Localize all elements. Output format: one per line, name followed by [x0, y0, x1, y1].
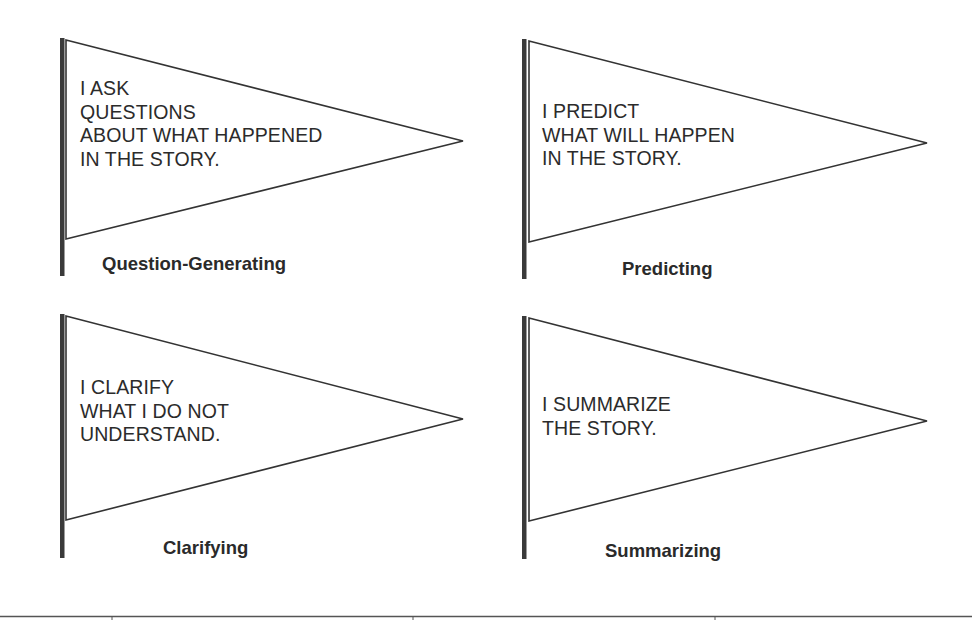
pennant-line: UNDERSTAND.	[80, 423, 229, 447]
pennant-line: IN THE STORY.	[542, 147, 735, 171]
pennant-label-question-generating: Question-Generating	[102, 253, 286, 275]
pennant-line: WHAT WILL HAPPEN	[542, 124, 735, 148]
flag-pole	[522, 39, 527, 279]
pennant-text-predicting: I PREDICT WHAT WILL HAPPEN IN THE STORY.	[542, 100, 735, 171]
pennant-line: IN THE STORY.	[80, 148, 322, 172]
pennant-label-clarifying: Clarifying	[163, 537, 248, 559]
flag-pole	[60, 314, 65, 558]
pennant-text-summarizing: I SUMMARIZE THE STORY.	[542, 393, 671, 440]
pennant-line: I ASK	[80, 77, 322, 101]
flag-pole	[522, 316, 527, 559]
pennant-line: WHAT I DO NOT	[80, 400, 229, 424]
flag-pole	[60, 38, 65, 276]
pennant-text-clarifying: I CLARIFY WHAT I DO NOT UNDERSTAND.	[80, 376, 229, 447]
pennant-line: I PREDICT	[542, 100, 735, 124]
pennant-label-summarizing: Summarizing	[605, 540, 721, 562]
pennant-line: ABOUT WHAT HAPPENED	[80, 124, 322, 148]
reciprocal-teaching-pennants: I ASK QUESTIONS ABOUT WHAT HAPPENED IN T…	[0, 0, 972, 620]
pennant-line: THE STORY.	[542, 417, 671, 441]
pennant-line: I CLARIFY	[80, 376, 229, 400]
pennant-text-question-generating: I ASK QUESTIONS ABOUT WHAT HAPPENED IN T…	[80, 77, 322, 171]
pennant-label-predicting: Predicting	[622, 258, 712, 280]
pennant-line: QUESTIONS	[80, 101, 322, 125]
bottom-rule	[0, 616, 972, 620]
pennant-line: I SUMMARIZE	[542, 393, 671, 417]
